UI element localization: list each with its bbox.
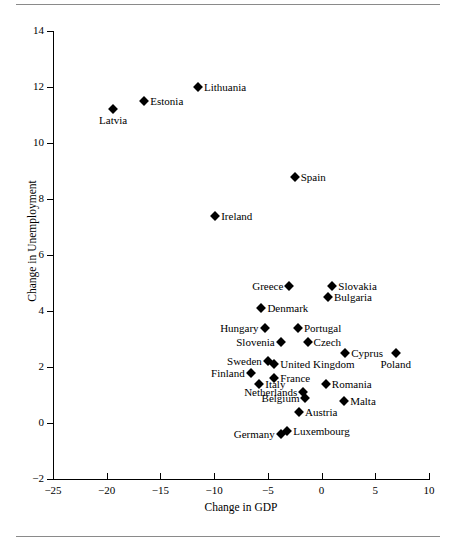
data-point-label: Finland — [211, 367, 245, 378]
data-point-label: Portugal — [304, 322, 341, 333]
data-point-label: Estonia — [150, 96, 183, 107]
data-point-marker — [339, 396, 349, 406]
data-point-label: Lithuania — [204, 82, 246, 93]
x-tick-mark — [53, 473, 54, 480]
x-tick-label: 10 — [409, 484, 449, 496]
data-point-marker — [301, 393, 311, 403]
y-tick-label: 0 — [14, 417, 44, 428]
data-point-label: Latvia — [99, 115, 127, 126]
y-tick-mark — [47, 87, 54, 88]
x-tick-label: 5 — [355, 484, 395, 496]
data-point-label: Romania — [332, 378, 372, 389]
y-tick-mark — [47, 311, 54, 312]
data-point-label: Luxembourg — [293, 426, 350, 437]
data-point-marker — [340, 348, 350, 358]
data-point-marker — [391, 348, 401, 358]
x-tick-mark — [107, 473, 108, 480]
x-tick-label: −25 — [33, 484, 73, 496]
data-point-marker — [210, 211, 220, 221]
x-tick-mark — [375, 473, 376, 480]
y-tick-label: 12 — [14, 81, 44, 92]
data-point-label: Belgium — [262, 392, 300, 403]
data-point-label: Slovenia — [236, 336, 275, 347]
data-point-marker — [276, 337, 286, 347]
data-point-marker — [293, 323, 303, 333]
x-tick-mark — [268, 473, 269, 480]
x-tick-mark — [322, 473, 323, 480]
data-point-marker — [327, 281, 337, 291]
data-point-label: Spain — [301, 171, 326, 182]
data-point-label: Austria — [305, 406, 337, 417]
data-point-marker — [139, 96, 149, 106]
x-tick-mark — [160, 473, 161, 480]
data-point-marker — [269, 359, 279, 369]
y-axis-title: Change in Unemployment — [26, 131, 38, 351]
data-point-marker — [284, 281, 294, 291]
y-tick-label: −2 — [14, 473, 44, 484]
data-point-marker — [246, 368, 256, 378]
data-point-label: Greece — [252, 280, 283, 291]
data-point-marker — [321, 379, 331, 389]
y-tick-label: 2 — [14, 361, 44, 372]
data-point-marker — [193, 82, 203, 92]
x-tick-label: −15 — [140, 484, 180, 496]
x-tick-mark — [429, 473, 430, 480]
y-tick-mark — [47, 143, 54, 144]
data-point-marker — [303, 337, 313, 347]
data-point-label: Ireland — [221, 210, 252, 221]
data-point-label: Germany — [234, 429, 275, 440]
data-point-label: Poland — [380, 359, 411, 370]
data-point-marker — [260, 323, 270, 333]
data-point-label: United Kingdom — [280, 359, 354, 370]
scatter-plot: −202468101214 −25−20−15−10−50510 LatviaE… — [0, 0, 451, 545]
data-point-label: Czech — [314, 336, 341, 347]
data-point-label: Bulgaria — [334, 292, 372, 303]
x-axis-line — [53, 479, 429, 480]
x-tick-label: −10 — [194, 484, 234, 496]
y-tick-mark — [47, 255, 54, 256]
data-point-marker — [256, 303, 266, 313]
y-tick-mark — [47, 199, 54, 200]
data-point-marker — [108, 104, 118, 114]
data-point-label: Hungary — [220, 322, 259, 333]
x-tick-mark — [214, 473, 215, 480]
x-tick-label: −20 — [87, 484, 127, 496]
x-tick-label: 0 — [302, 484, 342, 496]
y-tick-mark — [47, 367, 54, 368]
y-tick-label: 14 — [14, 25, 44, 36]
data-point-marker — [323, 292, 333, 302]
data-point-marker — [290, 172, 300, 182]
data-point-label: Malta — [350, 395, 376, 406]
y-tick-mark — [47, 423, 54, 424]
x-tick-label: −5 — [248, 484, 288, 496]
data-point-marker — [294, 407, 304, 417]
data-point-label: Denmark — [267, 303, 308, 314]
x-axis-title: Change in GDP — [53, 501, 429, 513]
y-tick-mark — [47, 31, 54, 32]
data-point-label: Cyprus — [351, 348, 383, 359]
